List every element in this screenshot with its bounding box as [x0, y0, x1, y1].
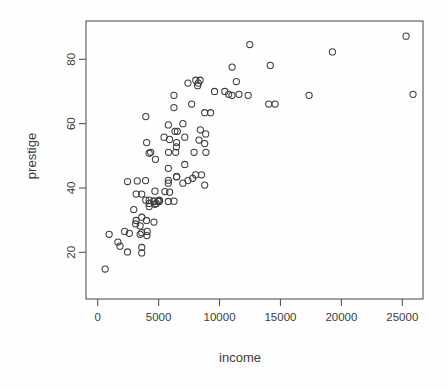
x-tick-label: 15000	[264, 311, 296, 323]
x-tick-label: 0	[94, 311, 100, 323]
x-tick-label: 20000	[325, 311, 357, 323]
y-tick-label: 40	[65, 182, 77, 195]
x-axis-title: income	[219, 350, 261, 365]
plot-canvas: 0500010000150002000025000 20406080 incom…	[0, 0, 448, 389]
x-tick-label: 10000	[204, 311, 236, 323]
y-tick-label: 60	[65, 117, 77, 130]
scatter-plot-figure: 0500010000150002000025000 20406080 incom…	[0, 0, 448, 389]
y-tick-label: 80	[65, 53, 77, 66]
y-tick-label: 20	[65, 246, 77, 259]
x-tick-label: 25000	[386, 311, 418, 323]
x-tick-label: 5000	[146, 311, 172, 323]
y-axis-title: prestige	[24, 133, 39, 179]
